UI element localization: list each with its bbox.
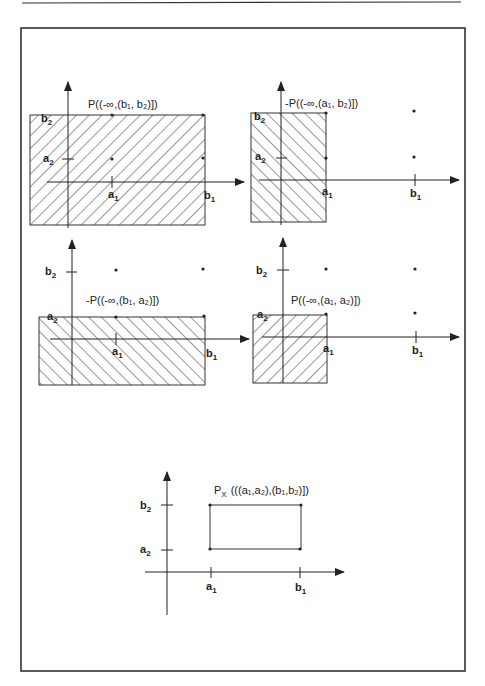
panel-3: -P((-∞,(b₁, a₂)]) b2 a2 a1 b1 (39, 240, 249, 385)
panel-title: PX(((a₁,a₂),(b₁,b₂)]) (214, 484, 309, 499)
point (110, 157, 113, 160)
point (324, 111, 327, 114)
panel-title: -P((-∞,(b₁, a₂)]) (86, 294, 159, 306)
point (110, 113, 113, 116)
point (201, 156, 204, 159)
hatched-region (251, 113, 326, 222)
panel-4: P((-∞,(a₁, a₂)]) b2 a2 a1 b1 (253, 238, 459, 383)
diagram-canvas: P((-∞,(b₁, b₂)]) b2 a2 a1 b1 -P((-∞,(a₁,… (0, 0, 485, 686)
hatched-region (30, 115, 205, 225)
panel-5: PX(((a₁,a₂),(b₁,b₂)]) b2 a2 a1 b1 (140, 472, 344, 615)
point (208, 547, 211, 550)
point (114, 315, 117, 318)
panel-title: P((-∞,(b₁, b₂)]) (88, 98, 158, 110)
label-b1: b1 (204, 189, 216, 204)
point (413, 311, 416, 314)
point (324, 267, 327, 270)
product-set-rectangle (210, 505, 301, 549)
label-b2: b2 (45, 265, 57, 280)
point (201, 113, 204, 116)
hatched-region (253, 315, 327, 383)
point (324, 312, 327, 315)
point (412, 109, 415, 112)
point (299, 503, 302, 506)
point (202, 314, 205, 317)
label-b1: b1 (412, 344, 424, 359)
point (114, 268, 117, 271)
panel-title: P((-∞,(a₁, a₂)]) (291, 294, 361, 306)
top-rule (22, 2, 461, 3)
point (201, 267, 204, 270)
label-b1: b1 (206, 347, 218, 362)
label-a2: a2 (140, 543, 151, 558)
point (413, 267, 416, 270)
label-b1: b1 (295, 581, 307, 596)
panel-title: -P((-∞,(a₁, b₂)]) (285, 97, 358, 109)
point (412, 155, 415, 158)
panel-2: -P((-∞,(a₁, b₂)]) b2 a2 a1 b1 (251, 82, 459, 225)
label-b2: b2 (256, 264, 268, 279)
point (208, 503, 211, 506)
point (324, 156, 327, 159)
label-b1: b1 (410, 187, 422, 202)
panel-1: P((-∞,(b₁, b₂)]) b2 a2 a1 b1 (30, 82, 244, 228)
label-a1: a1 (206, 580, 217, 595)
label-b2: b2 (140, 499, 152, 514)
point (298, 547, 301, 550)
